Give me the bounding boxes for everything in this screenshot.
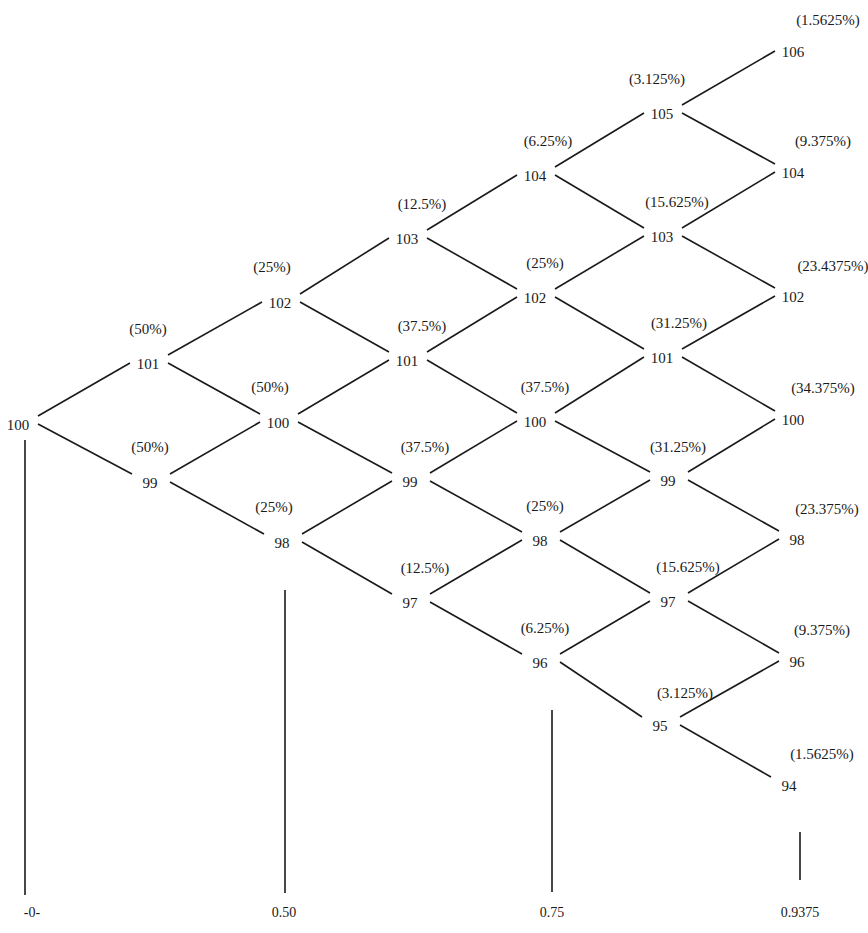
binomial-tree-diagram: 100101(50%)99(50%)102(25%)100(50%)98(25%…: [0, 0, 868, 933]
node-price: 106: [782, 44, 805, 60]
node-price: 105: [651, 106, 674, 122]
node-probability: (15.625%): [656, 559, 720, 576]
tree-edge: [555, 421, 650, 472]
tree-edge: [427, 360, 517, 413]
tree-edge: [560, 540, 650, 593]
tree-edge: [560, 662, 642, 717]
tree-edge: [170, 482, 264, 534]
node-probability: (1.5625%): [790, 746, 854, 763]
tree-edge: [302, 542, 392, 594]
node-price: 98: [790, 532, 805, 548]
tree-edge: [430, 481, 522, 532]
tree-edge: [682, 357, 775, 411]
node-probability: (37.5%): [401, 439, 450, 456]
node-price: 99: [143, 475, 158, 491]
node-price: 97: [403, 595, 419, 611]
node-probability: (6.25%): [521, 620, 570, 637]
node-price: 103: [396, 231, 419, 247]
node-probability: (12.5%): [401, 560, 450, 577]
node-probability: (50%): [251, 379, 289, 396]
node-price: 100: [7, 417, 30, 433]
node-probability: (6.25%): [524, 133, 573, 150]
tree-edge: [688, 601, 779, 653]
node-probability: (23.4375%): [797, 258, 868, 275]
tree-edge: [298, 360, 389, 414]
node-probability: (15.625%): [645, 194, 709, 211]
node-probability: (3.125%): [629, 71, 685, 88]
tree-edge: [38, 424, 132, 474]
node-probability: (25%): [253, 259, 291, 276]
node-probability: (31.25%): [650, 439, 706, 456]
bar-label: 0.9375: [781, 905, 820, 920]
tree-edge: [682, 51, 775, 105]
tree-edge: [430, 602, 522, 654]
tree-edge: [168, 302, 262, 355]
node-price: 99: [403, 474, 418, 490]
tree-edge: [170, 422, 260, 474]
tree-edge: [680, 725, 771, 777]
tree-edge: [300, 238, 389, 294]
tree-edge: [555, 236, 644, 289]
node-price: 95: [653, 718, 668, 734]
node-price: 96: [533, 655, 549, 671]
tree-edge: [555, 175, 644, 228]
tree-edge: [560, 601, 650, 654]
bar-label: -0-: [24, 905, 41, 920]
tree-edge: [298, 422, 392, 473]
node-price: 98: [533, 533, 548, 549]
node-price: 101: [137, 356, 160, 372]
bar-label: 0.75: [540, 905, 565, 920]
tree-edge: [168, 363, 260, 414]
tree-edge: [38, 363, 130, 416]
node-price: 100: [524, 414, 547, 430]
node-price: 102: [524, 290, 547, 306]
tree-edge: [427, 238, 517, 289]
node-price: 100: [267, 415, 290, 431]
node-price: 99: [661, 473, 676, 489]
tree-edge: [560, 480, 650, 532]
node-probability: (1.5625%): [796, 12, 860, 29]
tree-edge: [682, 236, 775, 288]
node-price: 102: [782, 289, 805, 305]
node-probability: (12.5%): [398, 196, 447, 213]
node-probability: (25%): [526, 498, 564, 515]
node-probability: (50%): [129, 321, 167, 338]
node-price: 102: [269, 295, 292, 311]
node-price: 103: [651, 229, 674, 245]
node-probability: (25%): [255, 499, 293, 516]
node-probability: (25%): [526, 255, 564, 272]
node-probability: (34.375%): [791, 380, 855, 397]
node-probability: (37.5%): [521, 379, 570, 396]
node-price: 104: [782, 165, 805, 181]
node-probability: (23.375%): [795, 501, 859, 518]
tree-edge: [302, 481, 392, 534]
node-probability: (9.375%): [794, 622, 850, 639]
node-probability: (50%): [131, 439, 169, 456]
tree-edge: [300, 302, 389, 352]
node-price: 101: [396, 353, 419, 369]
tree-edge: [688, 480, 779, 531]
node-price: 96: [790, 654, 806, 670]
tree-edge: [682, 113, 775, 164]
node-probability: (9.375%): [795, 133, 851, 150]
node-probability: (37.5%): [398, 318, 447, 335]
node-probability: (31.25%): [651, 315, 707, 332]
node-price: 100: [782, 412, 805, 428]
node-price: 97: [661, 594, 677, 610]
node-probability: (3.125%): [657, 685, 713, 702]
node-price: 104: [524, 168, 547, 184]
node-price: 94: [782, 778, 798, 794]
tree-edge: [555, 297, 644, 349]
node-price: 101: [651, 350, 674, 366]
node-price: 98: [275, 535, 290, 551]
bar-label: 0.50: [272, 905, 297, 920]
